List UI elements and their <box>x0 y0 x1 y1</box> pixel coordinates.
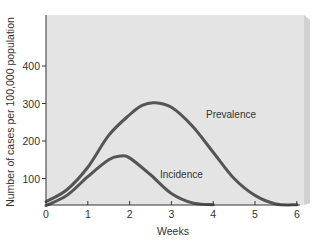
y-tick-label: 200 <box>22 135 40 147</box>
x-tick-label: 3 <box>168 208 174 220</box>
x-tick-label: 2 <box>127 208 133 220</box>
y-tick-label: 400 <box>22 60 40 72</box>
y-tick-label: 100 <box>22 173 40 185</box>
chart: 100200300400 0123456 Prevalence Incidenc… <box>0 0 318 244</box>
x-axis-title: Weeks <box>157 225 189 237</box>
x-tick-label: 5 <box>252 208 258 220</box>
x-tick-label: 0 <box>43 208 49 220</box>
panel-bevel <box>304 15 310 205</box>
x-tick-label: 4 <box>210 208 216 220</box>
x-tick-label: 6 <box>294 208 300 220</box>
y-axis-ticks: 100200300400 <box>22 60 46 185</box>
incidence-label: Incidence <box>160 169 203 180</box>
x-tick-label: 1 <box>85 208 91 220</box>
y-axis-title: Number of cases per 100,000 population <box>4 17 16 207</box>
y-tick-label: 300 <box>22 98 40 110</box>
prevalence-label: Prevalence <box>206 109 256 120</box>
